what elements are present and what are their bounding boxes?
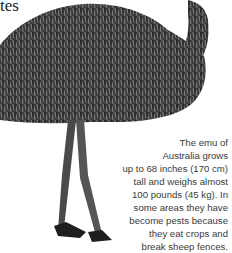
caption-line: become pests because — [88, 214, 228, 227]
caption-line: break sheep fences. — [88, 240, 228, 253]
caption-line: tall and weighs almost — [88, 175, 228, 188]
caption-line: Australia grows — [88, 149, 228, 162]
emu-caption: The emu of Australia grows up to 68 inch… — [88, 136, 228, 253]
caption-line: some areas they have — [88, 201, 228, 214]
heading-fragment: tes — [0, 0, 19, 16]
caption-line: The emu of — [88, 136, 228, 149]
caption-line: 100 pounds (45 kg). In — [88, 188, 228, 201]
caption-line: up to 68 inches (170 cm) — [88, 162, 228, 175]
caption-line: they eat crops and — [88, 227, 228, 240]
